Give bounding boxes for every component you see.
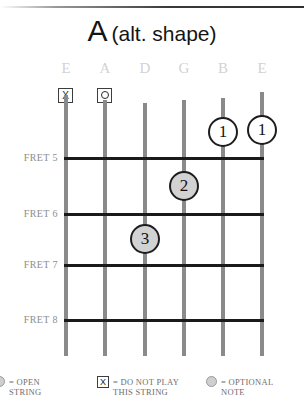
string-label-4: B xyxy=(212,60,234,77)
guitar-string-0 xyxy=(64,95,68,356)
string-label-5: E xyxy=(251,60,273,77)
finger-marker-1: 1 xyxy=(247,115,277,145)
chord-name: A xyxy=(87,14,107,47)
do-not-play-x-box: X xyxy=(97,376,109,388)
legend-text-0: = OPEN STRING xyxy=(9,376,42,397)
fret-line-0 xyxy=(64,157,264,160)
finger-marker-3: 3 xyxy=(130,224,160,254)
string-label-3: G xyxy=(173,60,195,77)
chord-variant: (alt. shape) xyxy=(111,22,216,45)
guitar-string-3 xyxy=(182,100,186,356)
top-divider xyxy=(0,6,304,8)
fret-line-3 xyxy=(64,319,264,322)
string-label-1: A xyxy=(94,60,116,77)
legend-item-0: = OPEN STRING xyxy=(0,376,42,397)
finger-marker-0: 1 xyxy=(208,117,238,147)
legend: = OPEN STRINGX= DO NOT PLAY THIS STRING=… xyxy=(0,376,304,405)
string-label-2: D xyxy=(134,60,156,77)
fret-label-3: FRET 8 xyxy=(0,314,58,325)
open-string-circle xyxy=(0,376,5,387)
string-label-0: E xyxy=(55,60,77,77)
legend-text-2: = OPTIONAL NOTE xyxy=(221,376,273,397)
fret-line-1 xyxy=(64,213,264,216)
fret-label-0: FRET 5 xyxy=(0,152,58,163)
legend-item-1: X= DO NOT PLAY THIS STRING xyxy=(97,376,179,397)
legend-item-2: = OPTIONAL NOTE xyxy=(206,376,273,397)
page-title: A(alt. shape) xyxy=(0,14,304,48)
legend-text-1: = DO NOT PLAY THIS STRING xyxy=(113,376,179,397)
finger-marker-2: 2 xyxy=(169,171,199,201)
fret-line-2 xyxy=(64,264,264,267)
fret-label-2: FRET 7 xyxy=(0,259,58,270)
optional-note-circle xyxy=(206,376,217,387)
fret-label-1: FRET 6 xyxy=(0,208,58,219)
guitar-string-1 xyxy=(103,100,107,356)
